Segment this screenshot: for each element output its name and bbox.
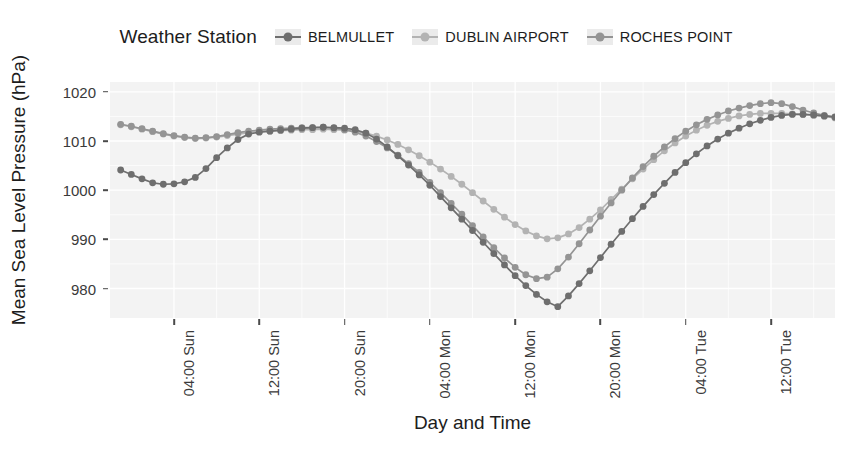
y-tick-label: 1010	[40, 133, 96, 150]
data-point	[490, 250, 497, 257]
data-point	[405, 162, 412, 169]
legend-key-dot	[421, 33, 430, 42]
data-point	[768, 99, 775, 106]
data-point	[501, 262, 508, 269]
legend-key-belmullet	[275, 29, 301, 45]
data-point	[181, 178, 188, 185]
data-point	[544, 274, 551, 281]
data-point	[267, 128, 274, 135]
data-point	[608, 200, 615, 207]
data-point	[800, 111, 807, 118]
data-point	[650, 153, 657, 160]
data-point	[778, 100, 785, 107]
data-point	[149, 179, 156, 186]
x-tick-mark	[600, 319, 602, 325]
plot-svg	[110, 82, 835, 318]
x-tick-mark	[173, 319, 175, 325]
x-tick-mark	[770, 319, 772, 325]
data-point	[341, 125, 348, 132]
data-point	[757, 100, 764, 107]
data-point	[501, 214, 508, 221]
plot-panel	[110, 82, 835, 318]
data-point	[299, 125, 306, 132]
data-point	[458, 181, 465, 188]
data-point	[608, 241, 615, 248]
x-tick-label: 04:00 Sun	[181, 330, 197, 396]
x-tick-label: 12:00 Mon	[522, 330, 538, 399]
data-point	[650, 191, 657, 198]
data-point	[746, 102, 753, 109]
data-point	[373, 136, 380, 143]
data-point	[565, 292, 572, 299]
data-point	[277, 127, 284, 134]
data-point	[629, 215, 636, 222]
data-point	[522, 282, 529, 289]
legend-entry-roches-point[interactable]: ROCHES POINT	[587, 29, 733, 45]
data-point	[171, 180, 178, 187]
data-point	[448, 204, 455, 211]
y-tick-label: 1000	[40, 182, 96, 199]
data-point	[437, 193, 444, 200]
data-point	[672, 135, 679, 142]
data-point	[682, 128, 689, 135]
x-tick-label: 12:00 Tue	[778, 330, 794, 395]
data-point	[522, 271, 529, 278]
legend-label-dublin-airport: DUBLIN AIRPORT	[445, 29, 568, 45]
data-point	[320, 124, 327, 131]
data-point	[426, 159, 433, 166]
data-point	[736, 105, 743, 112]
data-point	[512, 272, 519, 279]
data-point	[203, 134, 210, 141]
legend: Weather Station BELMULLET DUBLIN AIRPORT…	[0, 22, 852, 52]
data-point	[789, 111, 796, 118]
data-point	[139, 125, 146, 132]
data-point	[224, 131, 231, 138]
data-point	[235, 129, 242, 136]
data-point	[789, 103, 796, 110]
x-tick-label: 04:00 Tue	[693, 330, 709, 395]
legend-key-dublin-airport	[412, 29, 438, 45]
x-tick-label: 20:00 Sun	[352, 330, 368, 396]
data-point	[394, 152, 401, 159]
data-point	[682, 159, 689, 166]
y-axis-title: Mean Sea Level Pressure (hPa)	[8, 55, 30, 325]
data-point	[704, 116, 711, 123]
y-tick-mark	[103, 140, 108, 142]
data-point	[149, 128, 156, 135]
data-point	[576, 224, 583, 231]
data-point	[490, 206, 497, 213]
x-tick-label: 04:00 Mon	[437, 330, 453, 399]
data-point	[565, 231, 572, 238]
data-point	[416, 172, 423, 179]
data-point	[661, 144, 668, 151]
data-point	[597, 213, 604, 220]
legend-entry-belmullet[interactable]: BELMULLET	[275, 29, 394, 45]
data-point	[362, 130, 369, 137]
x-tick-mark	[344, 319, 346, 325]
data-point	[192, 174, 199, 181]
data-point	[171, 132, 178, 139]
data-point	[192, 135, 199, 142]
data-point	[213, 133, 220, 140]
data-point	[160, 130, 167, 137]
data-point	[128, 123, 135, 130]
data-point	[768, 114, 775, 121]
data-point	[704, 122, 711, 129]
data-point	[746, 111, 753, 118]
series-layer	[117, 99, 835, 310]
legend-key-dot	[595, 33, 604, 42]
legend-entry-dublin-airport[interactable]: DUBLIN AIRPORT	[412, 29, 568, 45]
data-point	[245, 131, 252, 138]
y-axis-title-wrap: Mean Sea Level Pressure (hPa)	[2, 60, 36, 320]
data-point	[309, 124, 316, 131]
data-point	[746, 120, 753, 127]
data-point	[139, 175, 146, 182]
x-tick-mark	[685, 319, 687, 325]
data-point	[821, 113, 828, 120]
data-point	[394, 141, 401, 148]
data-point	[256, 129, 263, 136]
data-point	[714, 118, 721, 125]
data-point	[618, 187, 625, 194]
data-point	[757, 117, 764, 124]
x-axis-title: Day and Time	[110, 412, 835, 434]
